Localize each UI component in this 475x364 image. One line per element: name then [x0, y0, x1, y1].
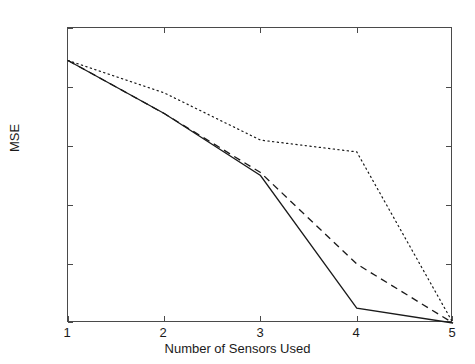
data-curves: [68, 28, 453, 323]
plot-area: [67, 27, 452, 322]
x-tick-label: 1: [63, 325, 70, 340]
series-line-dotted: [68, 60, 453, 323]
series-line-solid: [68, 60, 453, 323]
chart-figure: 100 10-2 10-4 10-6 10-8 10-10 1 2 3 4 5 …: [0, 0, 475, 364]
series-line-dashed: [68, 60, 453, 323]
x-tick-label: 4: [352, 325, 359, 340]
x-axis-title: Number of Sensors Used: [0, 341, 475, 356]
x-tick-label: 2: [159, 325, 166, 340]
x-tick-label: 5: [448, 325, 455, 340]
x-tick-label: 3: [256, 325, 263, 340]
y-axis-title: MSE: [7, 124, 22, 152]
